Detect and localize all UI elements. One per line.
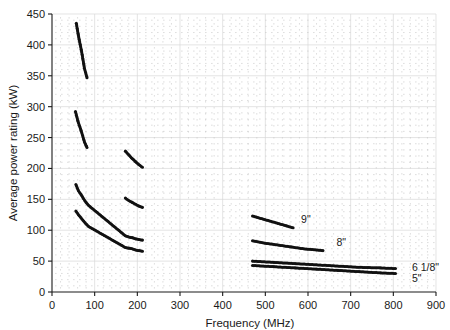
- x-tick-label: 700: [341, 299, 359, 311]
- y-axis-title: Average power rating (kW): [7, 85, 19, 222]
- data-point: [394, 272, 397, 275]
- x-tick-label: 0: [49, 299, 55, 311]
- data-point: [141, 239, 144, 242]
- chart-plot-area: 0501001502002503003504004500100200300400…: [0, 0, 450, 330]
- y-tick-label: 200: [27, 162, 45, 174]
- series-group: [75, 22, 295, 230]
- series-group: [74, 183, 397, 270]
- y-tick-label: 300: [27, 101, 45, 113]
- x-tick-label: 400: [213, 299, 231, 311]
- y-tick-label: 350: [27, 70, 45, 82]
- data-point: [141, 206, 144, 209]
- y-tick-label: 0: [39, 286, 45, 298]
- y-tick-label: 150: [27, 193, 45, 205]
- data-point: [292, 226, 295, 229]
- x-tick-label: 600: [299, 299, 317, 311]
- x-tick-label: 900: [427, 299, 445, 311]
- x-tick-label: 300: [171, 299, 189, 311]
- data-point: [321, 249, 324, 252]
- y-tick-label: 250: [27, 132, 45, 144]
- x-tick-label: 200: [128, 299, 146, 311]
- series-label: 9": [301, 213, 311, 225]
- series-label: 8": [337, 236, 347, 248]
- data-point: [141, 166, 144, 169]
- y-tick-label: 100: [27, 224, 45, 236]
- y-tick-label: 450: [27, 8, 45, 20]
- series-label: 5": [412, 272, 422, 284]
- x-axis-title: Frequency (MHz): [206, 317, 295, 329]
- x-tick-label: 100: [85, 299, 103, 311]
- y-tick-label: 50: [33, 255, 45, 267]
- average-power-rating-chart: 0501001502002503003504004500100200300400…: [0, 0, 450, 330]
- data-point: [85, 146, 88, 149]
- data-point: [85, 76, 88, 79]
- x-tick-label: 500: [256, 299, 274, 311]
- x-tick-label: 800: [384, 299, 402, 311]
- y-tick-label: 400: [27, 39, 45, 51]
- data-point: [394, 267, 397, 270]
- data-point: [141, 250, 144, 253]
